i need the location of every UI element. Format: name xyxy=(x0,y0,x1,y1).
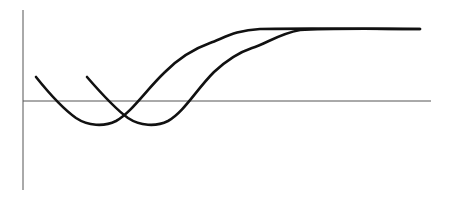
curve-2 xyxy=(87,29,420,125)
curve-1 xyxy=(36,29,420,125)
line-diagram xyxy=(0,0,452,198)
